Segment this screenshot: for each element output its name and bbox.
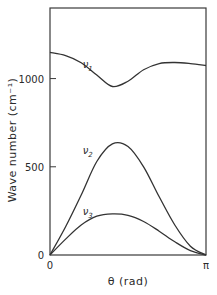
series-curve-ν3 <box>50 214 206 255</box>
y-axis-label: Wave number (cm⁻¹) <box>6 78 19 203</box>
series-curves <box>50 52 206 255</box>
plot-frame <box>50 8 206 255</box>
series-label-ν2: ν2 <box>83 145 94 159</box>
series-label-ν3: ν3 <box>83 206 93 220</box>
series-label-ν1: ν1 <box>83 59 93 73</box>
series-curve-ν2 <box>50 143 206 255</box>
y-tick-label: 1000 <box>19 74 44 85</box>
x-axis-ticks: 0π <box>47 260 209 271</box>
x-tick-label: 0 <box>47 260 53 271</box>
y-tick-label: 0 <box>38 250 44 261</box>
chart: 05001000 0π ν1ν2ν3 Wave number (cm⁻¹) θ … <box>0 0 217 295</box>
series-curve-ν1 <box>50 52 206 86</box>
x-axis-label: θ (rad) <box>108 275 149 288</box>
x-tick-label: π <box>203 260 209 271</box>
series-labels: ν1ν2ν3 <box>83 59 94 220</box>
y-tick-label: 500 <box>25 162 44 173</box>
